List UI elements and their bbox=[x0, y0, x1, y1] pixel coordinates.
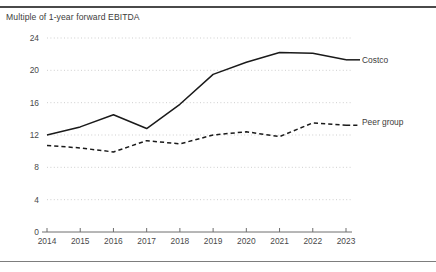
x-tick-label: 2015 bbox=[71, 236, 90, 246]
x-tick-label: 2023 bbox=[337, 236, 356, 246]
bottom-divider-rule bbox=[0, 261, 436, 262]
x-tick-label: 2021 bbox=[270, 236, 289, 246]
series-label-costco: Costco bbox=[362, 55, 388, 65]
x-tick-label: 2017 bbox=[137, 236, 156, 246]
series-label-peer-group: Peer group bbox=[362, 117, 403, 127]
y-tick-label: 12 bbox=[30, 130, 40, 140]
chart-plot-area: 04812162024 2014201520162017201820192020… bbox=[0, 0, 436, 272]
x-tick-label: 2019 bbox=[204, 236, 223, 246]
series-line-peer-group bbox=[47, 123, 346, 152]
x-tick-label: 2014 bbox=[38, 236, 57, 246]
x-tick-label: 2018 bbox=[171, 236, 190, 246]
y-tick-label: 16 bbox=[30, 98, 40, 108]
x-tick-label: 2020 bbox=[237, 236, 256, 246]
y-tick-label: 8 bbox=[34, 162, 39, 172]
gridlines-group bbox=[47, 38, 352, 200]
series-line-costco bbox=[47, 53, 346, 135]
y-tick-label: 20 bbox=[30, 65, 40, 75]
x-tick-label: 2016 bbox=[104, 236, 123, 246]
x-axis-group: 2014201520162017201820192020202120222023 bbox=[38, 228, 356, 246]
chart-figure: Multiple of 1-year forward EBITDA 048121… bbox=[0, 0, 436, 272]
x-tick-label: 2022 bbox=[303, 236, 322, 246]
y-tick-label: 24 bbox=[30, 33, 40, 43]
y-tick-label: 4 bbox=[34, 195, 39, 205]
y-axis-tick-labels: 04812162024 bbox=[30, 33, 40, 237]
